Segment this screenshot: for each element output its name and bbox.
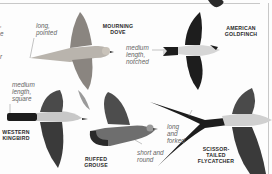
scissor-tailed-flycatcher-tail-note: long and forked <box>167 124 185 144</box>
western-kingbird-label: WESTERN KINGBIRD <box>0 129 32 141</box>
edge-text-fragment: e <box>0 31 4 38</box>
field-guide-page: , e r long, pointed MOURNING DOVE medium… <box>0 0 272 174</box>
ruffed-grouse-label: RUFFED GROUSE <box>80 156 112 168</box>
western-kingbird-tail-note: medium length, square <box>12 82 35 102</box>
partial-bird-top-icon <box>208 0 224 7</box>
mourning-dove-tail-note: long, pointed <box>36 23 57 37</box>
american-goldfinch-label: AMERICAN GOLDFINCH <box>216 25 266 37</box>
scissor-tailed-flycatcher-label: SCISSOR- TAILED FLYCATCHER <box>196 146 236 165</box>
gray-feather-icon <box>78 90 90 110</box>
edge-text-fragment: , <box>0 22 2 29</box>
ruffed-grouse-tail-note: short and round <box>137 150 164 164</box>
ruffed-grouse-illustration <box>90 92 158 146</box>
american-goldfinch-tail-note: medium length, notched <box>126 45 149 65</box>
mourning-dove-label: MOURNING DOVE <box>98 23 138 35</box>
american-goldfinch-illustration <box>152 12 220 90</box>
edge-text-fragment: r <box>0 54 2 61</box>
